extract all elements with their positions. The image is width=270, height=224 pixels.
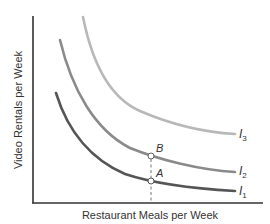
indifference-curve-i1 <box>56 93 235 191</box>
point-b-marker <box>148 153 154 159</box>
indifference-curve-i2 <box>60 40 235 172</box>
axes <box>32 16 263 204</box>
curve-label-i1: I1 <box>239 184 247 200</box>
point-a-marker <box>148 178 154 184</box>
curve-label-i3: I3 <box>239 127 247 143</box>
y-axis-title: Video Rentals per Week <box>12 50 24 169</box>
indifference-curve-chart: B A I3 I2 I1 Restaurant Meals per Week V… <box>0 0 270 224</box>
curve-label-i2: I2 <box>239 164 247 180</box>
x-axis-title: Restaurant Meals per Week <box>82 209 219 221</box>
point-b-label: B <box>156 142 163 154</box>
point-a-label: A <box>155 167 163 179</box>
indifference-curve-i3 <box>83 17 235 134</box>
